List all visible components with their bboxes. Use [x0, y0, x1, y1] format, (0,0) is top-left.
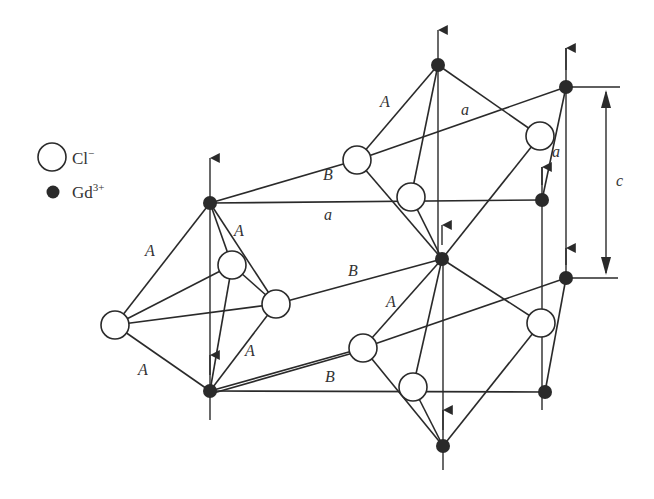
cl-ion [349, 334, 377, 362]
cl-ion [343, 146, 371, 174]
cl-ion [262, 290, 290, 318]
gd-ion [435, 252, 449, 266]
label-A: A [137, 361, 148, 378]
label-a: a [461, 101, 469, 118]
cl-ion [397, 183, 425, 211]
label-B: B [323, 166, 333, 183]
gd-ion [538, 385, 552, 399]
dimension-c: c [566, 87, 623, 278]
cl-ion [399, 373, 427, 401]
gd-ion [535, 193, 549, 207]
cl-ion [526, 122, 554, 150]
gd-ion [203, 196, 217, 210]
chloride-ions [101, 122, 555, 401]
cl-ion [527, 309, 555, 337]
label-B: B [325, 368, 335, 385]
gd-ion [559, 80, 573, 94]
gadolinium-ions [203, 58, 573, 453]
gdcl3-crystal-structure: Cl− Gd3+ c [0, 0, 654, 499]
label-A: A [244, 342, 255, 359]
legend-chloride-label: Cl− [72, 147, 94, 168]
legend-gadolinium-icon [47, 186, 60, 199]
label-a: a [324, 206, 332, 223]
label-A: A [385, 293, 396, 310]
label-A: A [233, 222, 244, 239]
legend-chloride-icon [38, 143, 66, 171]
gd-ion [436, 439, 450, 453]
cl-ion [101, 311, 129, 339]
gd-ion [559, 271, 573, 285]
gd-ion [431, 58, 445, 72]
bonds [115, 65, 566, 446]
cl-ion [218, 251, 246, 279]
gd-ion [203, 384, 217, 398]
label-a: a [552, 143, 560, 160]
label-A: A [379, 93, 390, 110]
label-c: c [616, 172, 623, 189]
legend-gadolinium-label: Gd3+ [72, 181, 105, 202]
label-B: B [348, 262, 358, 279]
bond-labels: A a a B a A A B A A A B [137, 93, 560, 385]
label-A: A [144, 242, 155, 259]
legend: Cl− Gd3+ [38, 143, 105, 202]
